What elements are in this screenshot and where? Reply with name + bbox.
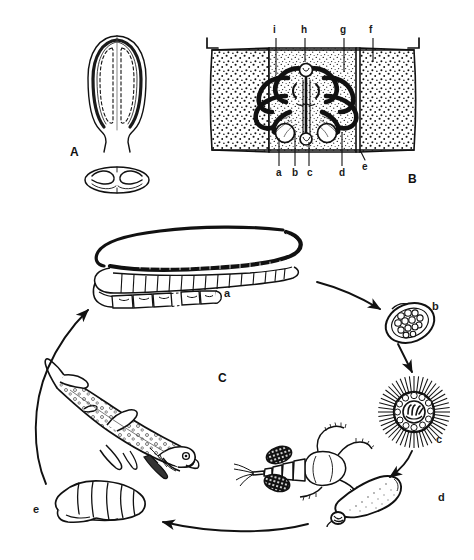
panel-a-letter: A — [70, 145, 79, 159]
arrow-a-to-b — [317, 282, 380, 309]
panel-a-drawing — [0, 0, 474, 560]
panel-b-leader-lines — [0, 0, 474, 560]
panel-b-label-i: i — [273, 25, 276, 35]
stage-label-e: e — [33, 504, 39, 515]
panel-b-label-a: a — [276, 168, 282, 178]
stage-label-c: c — [436, 434, 442, 445]
panel-b-letter: B — [408, 172, 417, 186]
panel-b-label-b: b — [292, 168, 298, 178]
plerocercoid-drawing — [56, 481, 146, 522]
panel-b-label-h: h — [301, 25, 307, 35]
panel-c-drawing — [0, 0, 474, 560]
arrow-d-to-e — [163, 522, 308, 531]
copepod-drawing — [234, 423, 374, 501]
panel-b-label-g: g — [340, 25, 346, 35]
panel-c-letter: C — [218, 371, 227, 385]
panel-b-label-d: d — [339, 168, 345, 178]
procercoid-drawing — [327, 476, 401, 527]
panel-b-label-f: f — [369, 25, 372, 35]
fish-drawing — [45, 359, 199, 479]
panel-b-label-e: e — [362, 162, 368, 172]
arrow-e-to-a — [36, 310, 88, 484]
arrow-c-to-d — [390, 451, 412, 477]
stage-label-a: a — [224, 288, 230, 299]
panel-b-label-c: c — [307, 168, 313, 178]
stage-label-d: d — [438, 492, 445, 503]
arrow-b-to-c — [398, 344, 412, 372]
stage-label-b: b — [432, 301, 439, 312]
scientific-figure: A — [0, 0, 474, 560]
panel-b-drawing — [0, 0, 474, 560]
adult-tapeworm-body — [93, 227, 300, 308]
